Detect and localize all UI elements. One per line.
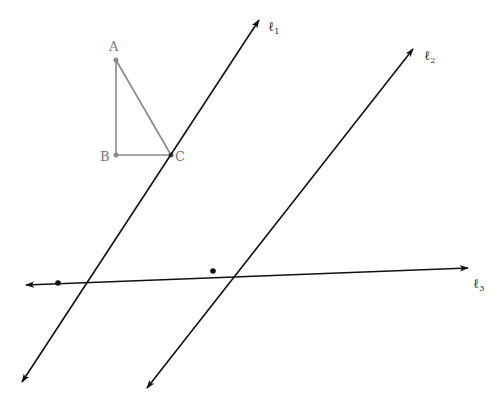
- label-l2: ℓ2: [424, 48, 435, 65]
- point-a: [114, 58, 119, 63]
- line-l2: [147, 49, 413, 388]
- geometry-figure: A B C ℓ1 ℓ2 ℓ3: [0, 0, 503, 412]
- segment-ac: [116, 60, 171, 155]
- label-b: B: [100, 149, 110, 164]
- intersection-l2-l3: [210, 268, 216, 274]
- line-l1: [22, 20, 259, 382]
- label-l3: ℓ3: [473, 276, 484, 293]
- line-l3: [26, 268, 468, 285]
- point-b: [114, 153, 119, 158]
- label-c: C: [175, 149, 185, 164]
- label-l1: ℓ1: [268, 19, 279, 36]
- intersection-l1-l3: [55, 280, 61, 286]
- label-a: A: [108, 39, 119, 54]
- triangle-abc: [114, 58, 174, 158]
- diagram-canvas: A B C ℓ1 ℓ2 ℓ3: [0, 0, 503, 412]
